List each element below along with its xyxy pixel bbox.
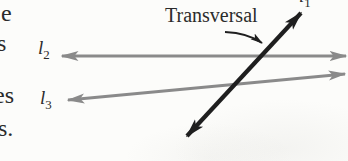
line3-label-sub: 3 bbox=[45, 97, 51, 112]
line-l3 bbox=[68, 74, 345, 100]
transversal-pointer-arrow bbox=[225, 32, 262, 43]
textbook-diagram: e s es s. Transversal l2 l3 l1 bbox=[0, 0, 348, 161]
line1-label-sub: 1 bbox=[304, 0, 310, 10]
line1-label-partial: l1 bbox=[299, 0, 311, 10]
line2-label: l2 bbox=[38, 38, 50, 62]
line3-label: l3 bbox=[40, 88, 52, 112]
line2-label-sub: 2 bbox=[43, 47, 49, 62]
transversal-line bbox=[187, 13, 301, 136]
transversal-label: Transversal bbox=[165, 5, 258, 25]
